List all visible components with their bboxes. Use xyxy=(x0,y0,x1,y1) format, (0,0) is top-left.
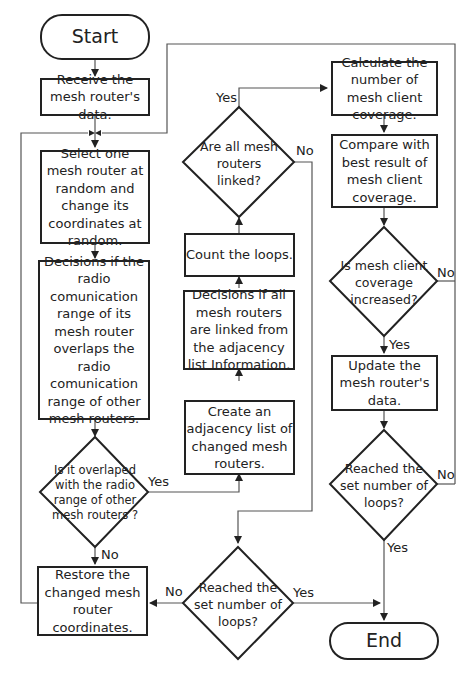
restore-coordinates-text: Restore the changed mesh router coordina… xyxy=(39,566,146,636)
compare-best-text: Compare with best result of mesh client … xyxy=(333,136,436,206)
decide-linked-box: Decisions if all mesh routers are linked… xyxy=(183,290,295,370)
receive-data-text: Receive the mesh router's data. xyxy=(42,71,148,124)
q-loops-mid-no-label: No xyxy=(165,584,183,599)
calculate-coverage-text: Calculate the number of mesh client cove… xyxy=(333,54,436,124)
start-terminal: Start xyxy=(40,14,150,60)
q-overlap-text: Is it overlaped with the radio range of … xyxy=(44,462,146,524)
q-linked-yes-label: Yes xyxy=(216,90,237,105)
end-terminal: End xyxy=(329,622,439,660)
q-loops-mid-yes-label: Yes xyxy=(293,585,314,600)
q-loops-right-no-label: No xyxy=(437,467,455,482)
create-adjacency-box: Create an adjacency list of changed mesh… xyxy=(184,400,295,475)
update-data-box: Update the mesh router's data. xyxy=(331,355,438,411)
end-label: End xyxy=(366,632,402,650)
q-overlap-no-label: No xyxy=(101,547,119,562)
create-adjacency-text: Create an adjacency list of changed mesh… xyxy=(186,403,293,473)
start-label: Start xyxy=(72,28,118,46)
q-overlap-yes-label: Yes xyxy=(148,474,169,489)
q-increase-text: Is mesh client coverage increased? xyxy=(338,255,430,309)
q-loops-right-text: Reached the set number of loops? xyxy=(338,458,430,512)
select-router-text: Select one mesh router at random and cha… xyxy=(42,145,148,250)
q-increase-no-label: No xyxy=(437,265,455,280)
q-loops-mid-text: Reached the set number of loops? xyxy=(193,576,283,632)
decide-overlap-box: Decisions if the radio comunication rang… xyxy=(38,260,150,420)
decide-linked-text: Decisions if all mesh routers are linked… xyxy=(185,286,293,374)
q-linked-text: Are all mesh routers linked? xyxy=(193,135,285,191)
q-linked-no-label: No xyxy=(296,143,314,158)
decide-overlap-text: Decisions if the radio comunication rang… xyxy=(40,253,148,428)
count-loops-box: Count the loops. xyxy=(184,233,295,277)
count-loops-text: Count the loops. xyxy=(186,246,293,264)
q-increase-yes-label: Yes xyxy=(389,337,410,352)
receive-data-box: Receive the mesh router's data. xyxy=(40,78,150,116)
compare-best-box: Compare with best result of mesh client … xyxy=(331,134,438,208)
select-router-box: Select one mesh router at random and cha… xyxy=(40,150,150,244)
restore-coordinates-box: Restore the changed mesh router coordina… xyxy=(37,566,148,636)
update-data-text: Update the mesh router's data. xyxy=(333,357,436,410)
calculate-coverage-box: Calculate the number of mesh client cove… xyxy=(331,61,438,116)
q-loops-right-yes-label: Yes xyxy=(387,540,408,555)
